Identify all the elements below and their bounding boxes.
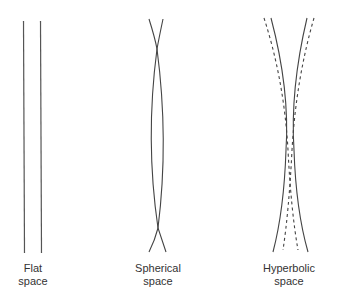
hyperbolic-space-dashed-lines [264, 18, 314, 250]
hyperbolic-label-line2: space [249, 275, 329, 288]
spherical-space-label: Spherical space [118, 262, 198, 288]
spherical-space-lines [149, 19, 166, 252]
flat-label-line1: Flat [0, 262, 73, 275]
hyperbolic-label-line1: Hyperbolic [249, 262, 329, 275]
flat-line-right [41, 21, 42, 253]
flat-line-left [24, 21, 25, 253]
hyperbolic-space-label: Hyperbolic space [249, 262, 329, 288]
spherical-line-b [157, 19, 166, 252]
geometry-diagram [0, 0, 338, 302]
hyperbolic-solid-right [293, 18, 308, 252]
spherical-line-a [149, 19, 158, 252]
spherical-label-line1: Spherical [118, 262, 198, 275]
flat-label-line2: space [0, 275, 73, 288]
hyperbolic-space-solid-lines [271, 18, 308, 252]
spherical-label-line2: space [118, 275, 198, 288]
flat-space-label: Flat space [0, 262, 73, 288]
flat-space-lines [24, 21, 42, 253]
hyperbolic-dashed-right [283, 18, 314, 250]
